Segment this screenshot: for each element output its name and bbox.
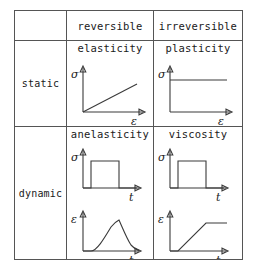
cell-static-irreversible: plasticity σ ε: [154, 41, 242, 127]
caption-plasticity: plasticity: [154, 42, 242, 54]
caption-elasticity: elasticity: [67, 42, 153, 54]
row-header-static-label: static: [22, 78, 59, 89]
row-header-dynamic: dynamic: [15, 127, 67, 259]
curve-anelasticity-stress: [83, 161, 137, 188]
column-header-reversible: reversible: [67, 11, 154, 41]
axis-label-sigma: σ: [71, 68, 79, 81]
axis-label-sigma: σ: [158, 68, 166, 81]
classification-table: reversible irreversible static elasticit…: [14, 10, 243, 260]
curve-viscosity-stress: [170, 161, 224, 188]
axis-label-t: t: [129, 254, 134, 259]
axis-label-t: t: [216, 191, 221, 204]
column-header-irreversible-label: irreversible: [159, 20, 237, 32]
axis-label-epsilon: ε: [218, 115, 224, 127]
curve-anelasticity-strain: [83, 220, 139, 251]
axis-label-epsilon: ε: [158, 213, 164, 226]
curve-viscosity-strain: [170, 223, 227, 251]
axis-label-sigma: σ: [71, 151, 79, 164]
curve-elasticity: [83, 84, 137, 112]
axis-label-t: t: [129, 191, 134, 204]
column-header-irreversible: irreversible: [154, 11, 242, 41]
table-corner-blank: [15, 11, 67, 41]
cell-dynamic-reversible: anelasticity σ t ε t: [67, 127, 154, 259]
plot-anelasticity: σ t ε t: [67, 127, 154, 259]
axis-label-t: t: [216, 254, 221, 259]
axis-label-sigma: σ: [158, 151, 166, 164]
row-header-static: static: [15, 41, 67, 127]
caption-anelasticity: anelasticity: [67, 128, 153, 140]
caption-viscosity: viscosity: [154, 128, 242, 140]
plot-viscosity: σ t ε t: [154, 127, 242, 259]
cell-dynamic-irreversible: viscosity σ t ε t: [154, 127, 242, 259]
axis-label-epsilon: ε: [71, 213, 77, 226]
axis-label-epsilon: ε: [131, 115, 137, 127]
cell-static-reversible: elasticity σ ε: [67, 41, 154, 127]
column-header-reversible-label: reversible: [77, 20, 142, 32]
row-header-dynamic-label: dynamic: [19, 188, 63, 199]
